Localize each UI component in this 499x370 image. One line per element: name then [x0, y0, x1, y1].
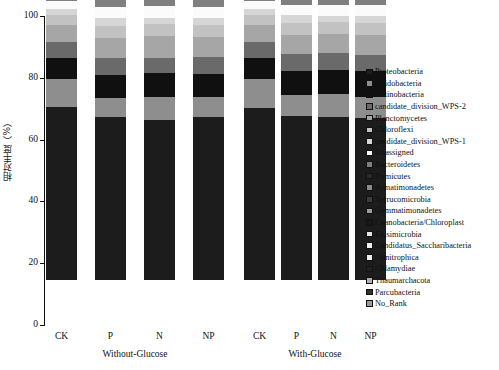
legend-item[interactable]: candidate_division_WPS-1: [366, 136, 499, 148]
legend-label: Thaumarchacota: [375, 276, 430, 285]
bar-segment: [355, 35, 386, 55]
bar-segment: [318, 117, 349, 280]
bar-segment: [193, 18, 224, 26]
bar-segment: [281, 23, 312, 35]
legend-item[interactable]: Planctomycetes: [366, 112, 499, 124]
legend-label: No_Rank: [375, 299, 407, 308]
legend-label: Verrucomicrobia: [375, 195, 431, 204]
bar-segment: [144, 73, 175, 98]
bar-segment: [318, 22, 349, 34]
bar-segment: [281, 35, 312, 55]
bar-segment: [193, 74, 224, 97]
legend-item[interactable]: Bacteroidetes: [366, 159, 499, 171]
x-axis-tick-label: NP: [193, 331, 224, 341]
bar-segment: [46, 58, 77, 79]
bar-segment: [281, 71, 312, 95]
legend-item[interactable]: Proteobacteria: [366, 66, 499, 78]
legend-swatch: [366, 150, 373, 157]
bar-segment: [46, 1, 77, 9]
legend-swatch: [366, 208, 373, 215]
legend-swatch: [366, 161, 373, 168]
legend-label: Actinobacteria: [375, 90, 424, 99]
bar-segment: [46, 107, 77, 280]
chart-root: 相对丰度（%） 020406080100 CKPNNPCKPNNPWithout…: [0, 0, 499, 370]
bar-segment: [281, 15, 312, 23]
legend-swatch: [366, 127, 373, 134]
bar-column[interactable]: [95, 0, 126, 280]
bar-segment: [46, 25, 77, 42]
legend-item[interactable]: Armatimonadetes: [366, 182, 499, 194]
legend-label: candidate_division_WPS-2: [375, 102, 466, 111]
bar-segment: [144, 24, 175, 36]
legend-label: Gemmatimonadetes: [375, 206, 441, 215]
bar-segment: [95, 7, 126, 18]
bar-segment: [95, 117, 126, 280]
legend-swatch: [366, 80, 373, 87]
legend-item[interactable]: Unassigned: [366, 147, 499, 159]
x-axis-tick-label: P: [95, 331, 126, 341]
legend-item[interactable]: Candidatus_Saccharibacteria: [366, 240, 499, 252]
legend-swatch: [366, 196, 373, 203]
bar-segment: [46, 79, 77, 107]
legend-label: Candidatus_Saccharibacteria: [375, 241, 471, 250]
bar-segment: [193, 97, 224, 117]
bar-segment: [244, 108, 275, 280]
legend-swatch: [366, 300, 373, 307]
legend-item[interactable]: Parcubacteria: [366, 286, 499, 298]
legend-swatch: [366, 277, 373, 284]
bar-segment: [193, 37, 224, 57]
legend-item[interactable]: Ohnitrophica: [366, 252, 499, 264]
bar-column[interactable]: [318, 0, 349, 280]
bar-segment: [95, 18, 126, 26]
legend-item[interactable]: candidate_division_WPS-2: [366, 101, 499, 113]
legend-item[interactable]: Verrucomicrobia: [366, 194, 499, 206]
legend-item[interactable]: Thaumarchacota: [366, 275, 499, 287]
x-axis-group-label: With-Glucose: [244, 349, 386, 359]
bar-column[interactable]: [244, 0, 275, 280]
legend-label: Cblamydiae: [375, 264, 415, 273]
bar-segment: [144, 36, 175, 57]
legend-label: Planctomycetes: [375, 114, 427, 123]
legend-item[interactable]: Elusimicrobia: [366, 228, 499, 240]
legend-swatch: [366, 242, 373, 249]
legend-item[interactable]: No_Rank: [366, 298, 499, 310]
legend-item[interactable]: Gemmatimonadetes: [366, 205, 499, 217]
bar-segment: [318, 34, 349, 54]
bar-segment: [144, 6, 175, 18]
legend-label: Elusimicrobia: [375, 230, 422, 239]
bar-segment: [355, 23, 386, 35]
legend-swatch: [366, 254, 373, 261]
bar-segment: [193, 117, 224, 280]
bar-segment: [281, 116, 312, 280]
bar-segment: [355, 5, 386, 16]
bar-segment: [244, 58, 275, 79]
legend-item[interactable]: Firmicutes: [366, 170, 499, 182]
bar-column[interactable]: [144, 0, 175, 280]
legend-swatch: [366, 103, 373, 110]
legend-label: Ohnitrophica: [375, 253, 419, 262]
legend-swatch: [366, 219, 373, 226]
x-axis-tick-label: CK: [46, 331, 77, 341]
bar-segment: [46, 42, 77, 57]
bar-column[interactable]: [193, 0, 224, 280]
legend-item[interactable]: Cblamydiae: [366, 263, 499, 275]
legend-item[interactable]: Acidobacteria: [366, 78, 499, 90]
bar-segment: [318, 53, 349, 70]
legend-label: Chloroflexi: [375, 125, 413, 134]
legend-item[interactable]: Chloroflexi: [366, 124, 499, 136]
bar-segment: [244, 42, 275, 57]
bar-segment: [318, 94, 349, 117]
legend-label: Bacteroidetes: [375, 160, 420, 169]
x-axis-tick-label: CK: [244, 331, 275, 341]
bar-segment: [244, 15, 275, 26]
bar-segment: [318, 70, 349, 94]
bar-column[interactable]: [281, 0, 312, 280]
x-axis-tick-label: N: [318, 331, 349, 341]
legend-label: Acidobacteria: [375, 79, 422, 88]
legend-label: Armatimonadetes: [375, 183, 434, 192]
bar-segment: [95, 38, 126, 58]
legend-item[interactable]: Actinobacteria: [366, 89, 499, 101]
bar-segment: [95, 75, 126, 98]
bar-column[interactable]: [46, 0, 77, 280]
legend-item[interactable]: Cyanobacteria/Chloroplast: [366, 217, 499, 229]
